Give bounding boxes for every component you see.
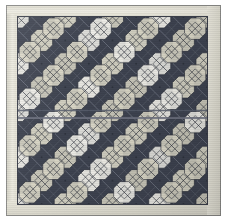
border-shading-right [207, 6, 220, 215]
border-shading-left [7, 6, 16, 215]
border-shading-top [7, 6, 220, 14]
quilt-photograph [0, 0, 227, 221]
quilt-block-grid [18, 17, 207, 204]
quilt-pieced-field [18, 17, 207, 204]
center-sashing-seam [18, 117, 207, 119]
